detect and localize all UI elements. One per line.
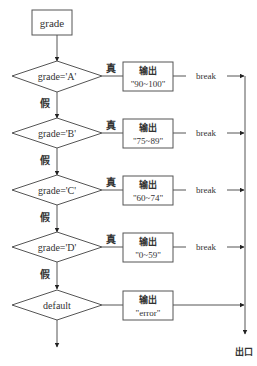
break-c: break (196, 185, 216, 195)
break-d: break (196, 242, 216, 252)
exit-line: 出口 (235, 76, 253, 357)
decision-b-true-label: 真 (106, 119, 116, 131)
output-d-title: 输出 (139, 236, 157, 247)
output-default-title: 输出 (139, 294, 157, 305)
output-b-value: "75~89" (133, 136, 164, 146)
decision-a-true-label: 真 (106, 62, 116, 74)
start-box: grade (32, 10, 72, 35)
decision-c: grade='C' 真 假 输出 "60~74" break (12, 175, 244, 223)
output-c-title: 输出 (139, 179, 157, 190)
output-a-title: 输出 (139, 65, 157, 76)
output-c-value: "60~74" (133, 193, 164, 203)
decision-b-condition: grade='B' (38, 128, 76, 139)
decision-b-false-label: 假 (40, 154, 51, 166)
break-b: break (196, 128, 216, 138)
start-box-label: grade (40, 17, 65, 29)
decision-d: grade='D' 真 假 输出 "0~59" break (12, 232, 244, 280)
decision-d-condition: grade='D' (38, 242, 77, 253)
flowchart-canvas: grade grade='A' 真 假 输出 "90~100" break gr… (0, 0, 257, 366)
decision-c-condition: grade='C' (38, 185, 76, 196)
decision-c-true-label: 真 (106, 176, 116, 188)
decision-b: grade='B' 真 假 输出 "75~89" break (12, 118, 244, 166)
decision-a-condition: grade='A' (38, 71, 77, 82)
output-default-value: "error" (136, 308, 161, 318)
decision-d-true-label: 真 (106, 233, 116, 245)
decision-a-false-label: 假 (40, 97, 51, 109)
default-label: default (43, 300, 71, 311)
decision-c-false-label: 假 (40, 211, 51, 223)
decision-d-false-label: 假 (40, 268, 51, 280)
output-d-value: "0~59" (135, 250, 161, 260)
output-b-title: 输出 (139, 122, 157, 133)
output-a-value: "90~100" (131, 79, 166, 89)
exit-label: 出口 (235, 346, 253, 357)
default-case: default 输出 "error" (12, 290, 244, 320)
break-a: break (196, 71, 216, 81)
decision-a: grade='A' 真 假 输出 "90~100" break (12, 61, 244, 109)
